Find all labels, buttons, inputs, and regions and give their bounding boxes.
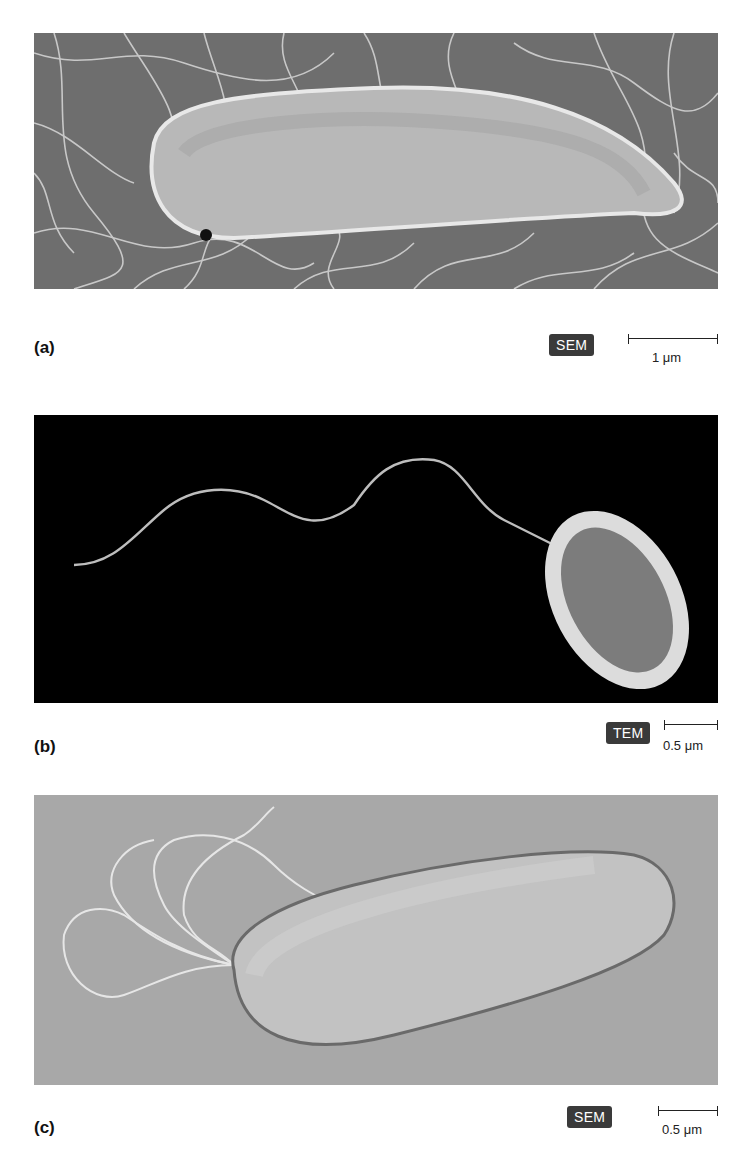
microscopy-badge-b: TEM <box>606 722 650 744</box>
scale-bar-c <box>658 1106 718 1116</box>
scale-bar-b <box>664 720 718 730</box>
micrograph-a <box>34 33 718 289</box>
scale-label-b: 0.5 μm <box>663 738 703 753</box>
micrograph-b <box>34 415 718 703</box>
panel-label-b: (b) <box>34 737 56 757</box>
sem-image-peritrichous <box>34 33 718 289</box>
panel-label-a: (a) <box>34 338 55 358</box>
microscopy-badge-a: SEM <box>549 334 594 356</box>
micrograph-c <box>34 795 718 1085</box>
tem-image-monotrichous <box>34 415 718 703</box>
scale-label-c: 0.5 μm <box>662 1122 702 1137</box>
microscopy-badge-c: SEM <box>567 1106 612 1128</box>
sem-image-lophotrichous <box>34 795 718 1085</box>
scale-bar-a <box>628 334 718 344</box>
panel-label-c: (c) <box>34 1118 55 1138</box>
scale-label-a: 1 μm <box>652 350 681 365</box>
